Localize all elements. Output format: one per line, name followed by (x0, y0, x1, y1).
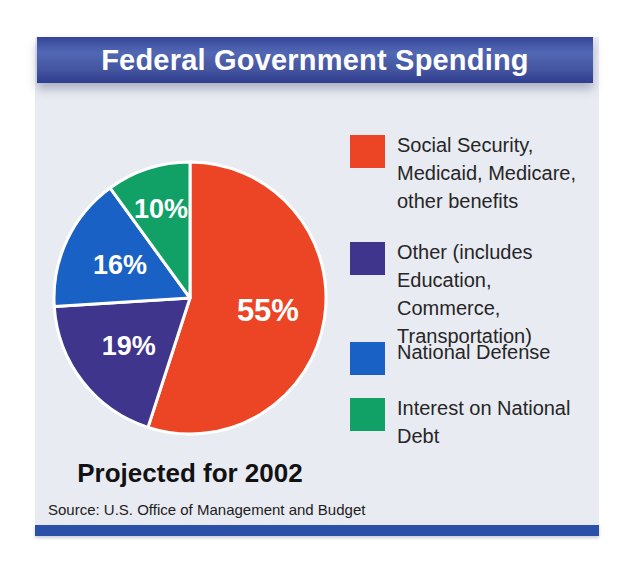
legend-swatch-social-security (350, 135, 385, 168)
pie-label-other: 19% (102, 331, 156, 361)
page-background: Federal Government Spending 55%19%16%10%… (0, 0, 628, 569)
caption-projected-year: Projected for 2002 (45, 458, 335, 489)
page-title: Federal Government Spending (101, 44, 529, 77)
bottom-rule-bar (35, 525, 599, 536)
pie-chart: 55%19%16%10% (45, 153, 335, 443)
legend-label-other: Other (includesEducation, Commerce,Trans… (397, 238, 598, 350)
pie-label-interest-national-debt: 10% (134, 194, 188, 224)
pie-label-social-security: 55% (237, 293, 299, 328)
legend-swatch-interest-national-debt (350, 398, 385, 431)
legend-swatch-national-defense (350, 342, 385, 375)
legend-item-social-security: Social Security,Medicaid, Medicare,other… (350, 135, 576, 215)
pie-label-national-defense: 16% (93, 250, 147, 280)
title-banner: Federal Government Spending (37, 37, 593, 83)
legend-label-social-security: Social Security,Medicaid, Medicare,other… (397, 131, 576, 215)
legend-label-national-defense: National Defense (397, 338, 550, 366)
legend-item-interest-national-debt: Interest on NationalDebt (350, 398, 570, 450)
legend-swatch-other (350, 242, 385, 275)
legend-item-national-defense: National Defense (350, 342, 550, 375)
legend-label-interest-national-debt: Interest on NationalDebt (397, 394, 570, 450)
legend: Social Security,Medicaid, Medicare,other… (350, 135, 598, 455)
legend-item-other: Other (includesEducation, Commerce,Trans… (350, 242, 598, 350)
source-text: Source: U.S. Office of Management and Bu… (48, 501, 365, 518)
